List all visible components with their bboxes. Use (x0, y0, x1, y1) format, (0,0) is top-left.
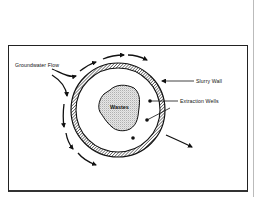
groundwater-flow-label: Groundwater Flow (15, 62, 59, 68)
extraction-well-3 (131, 136, 135, 140)
slurry-wall-label: Slurry Wall (196, 78, 222, 84)
extraction-wells-label: Extraction Wells (180, 98, 219, 104)
wastes-label: Wastes (110, 104, 129, 110)
